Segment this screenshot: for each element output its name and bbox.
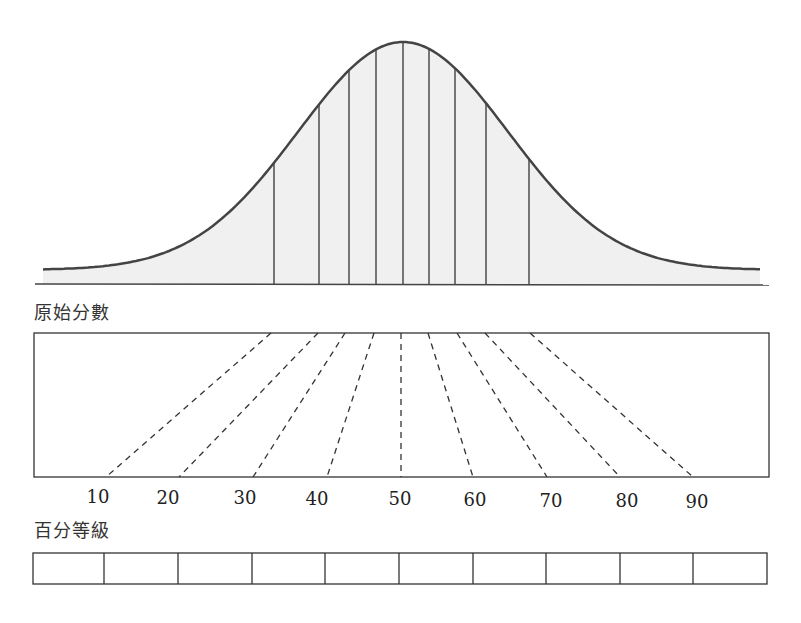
percentile-tick-label: 20 (157, 487, 180, 508)
percentile-tick-label: 70 (540, 490, 563, 511)
percentile-tick-label: 10 (87, 486, 110, 507)
mapping-dashed-line (179, 333, 318, 477)
percentile-tick-label: 30 (234, 487, 257, 508)
percentile-bar (33, 553, 767, 584)
percentile-tick-label: 40 (306, 488, 329, 509)
mapping-dashed-line (253, 333, 345, 477)
percentile-tick-label: 80 (616, 490, 639, 511)
mapping-dashed-line (428, 333, 473, 477)
percentile-rank-label: 百分等級 (34, 516, 110, 542)
raw-score-label: 原始分數 (34, 298, 110, 324)
baseline-axis (35, 284, 769, 285)
percentile-bar-dividers (104, 553, 693, 584)
mapping-dashed-line (457, 333, 547, 477)
percentile-tick-label: 50 (389, 488, 412, 509)
curve-fill-area (43, 42, 760, 284)
percentile-tick-label: 60 (464, 489, 487, 510)
mapping-dashed-line (106, 333, 271, 477)
mapping-dashed-line (327, 333, 374, 477)
normal-curve-diagram (0, 0, 801, 623)
mapping-dashed-line (485, 333, 620, 477)
percentile-tick-label: 90 (686, 491, 709, 512)
mapping-dashed-line (530, 333, 693, 477)
mapping-dashed-lines (106, 333, 693, 477)
